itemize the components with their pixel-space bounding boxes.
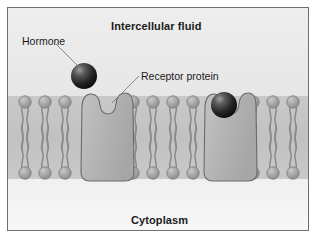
hormone-free	[71, 63, 97, 89]
diagram-frame: Intercellular fluid Cytoplasm Hormone Re…	[7, 7, 309, 231]
membrane-band	[8, 96, 308, 179]
diagram-canvas: Intercellular fluid Cytoplasm Hormone Re…	[0, 0, 318, 240]
label-receptor-protein: Receptor protein	[141, 71, 219, 82]
label-hormone: Hormone	[22, 36, 65, 47]
hormone-bound	[211, 92, 237, 118]
label-intercellular-fluid: Intercellular fluid	[111, 21, 202, 32]
label-cytoplasm: Cytoplasm	[131, 215, 188, 226]
